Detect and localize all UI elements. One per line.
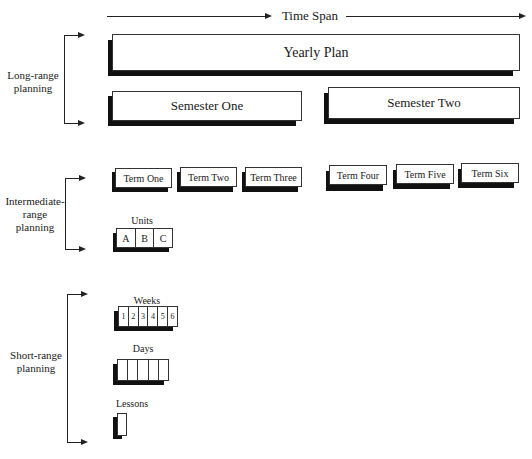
bracket-bottom-arrowhead [81, 439, 88, 445]
term-four-box: Term Four [329, 165, 387, 185]
bracket-bottom-arrowhead [79, 246, 86, 252]
semester-two-box: Semester Two [328, 87, 520, 119]
week-cell: 6 [168, 307, 177, 326]
unit-cell: B [136, 229, 155, 247]
units-box: A B C [116, 228, 173, 248]
bracket-top-arrowhead [79, 175, 86, 181]
bracket-top-arrowhead [81, 291, 88, 297]
term-three-box: Term Three [245, 167, 302, 187]
long-range-label: Long-range planning [4, 69, 62, 95]
term-one-box: Term One [115, 168, 172, 188]
time-span-label: Time Span [275, 8, 345, 24]
bracket-spine [67, 294, 68, 443]
day-cell [159, 360, 168, 380]
days-box [117, 359, 169, 381]
bracket-spine [64, 35, 65, 124]
week-cell: 1 [119, 307, 129, 326]
day-cell [118, 360, 128, 380]
days-label: Days [128, 342, 158, 355]
time-axis-arrowhead-end [519, 13, 526, 19]
bracket-top-arrowhead [78, 32, 85, 38]
week-cell: 3 [139, 307, 149, 326]
time-axis-line-left [107, 16, 267, 17]
term-six-box: Term Six [461, 163, 519, 183]
semester-one-box: Semester One [112, 91, 302, 121]
bracket-bottom-line [65, 249, 79, 250]
time-axis-line-right [346, 16, 520, 17]
yearly-plan-label: Yearly Plan [283, 45, 348, 61]
term-four-label: Term Four [337, 170, 379, 181]
bracket-bottom-line [64, 123, 78, 124]
unit-cell: A [117, 229, 136, 247]
bracket-top-line [65, 178, 79, 179]
term-three-label: Term Three [250, 172, 297, 183]
term-six-label: Term Six [472, 168, 509, 179]
bracket-bottom-arrowhead [78, 120, 85, 126]
week-cell: 5 [158, 307, 168, 326]
yearly-plan-box: Yearly Plan [112, 34, 520, 71]
week-cell: 2 [129, 307, 139, 326]
unit-cell: C [154, 229, 172, 247]
week-cell: 4 [148, 307, 158, 326]
bracket-top-line [67, 294, 81, 295]
semester-one-label: Semester One [171, 98, 244, 114]
semester-two-label: Semester Two [387, 95, 461, 111]
weeks-box: 1 2 3 4 5 6 [118, 306, 178, 327]
bracket-bottom-line [67, 442, 81, 443]
lessons-label: Lessons [112, 397, 152, 410]
term-one-label: Term One [123, 173, 163, 184]
term-two-box: Term Two [180, 167, 237, 187]
day-cell [128, 360, 138, 380]
day-cell [149, 360, 159, 380]
term-two-label: Term Two [188, 172, 229, 183]
time-axis-arrowhead-mid [265, 13, 272, 19]
day-cell [138, 360, 148, 380]
term-five-box: Term Five [396, 164, 454, 184]
units-label: Units [126, 214, 158, 227]
term-five-label: Term Five [404, 169, 445, 180]
short-range-label: Short-range planning [10, 349, 62, 375]
intermediate-range-label: Intermediate-range planning [4, 195, 66, 234]
bracket-top-line [64, 35, 78, 36]
lessons-box [117, 413, 127, 436]
